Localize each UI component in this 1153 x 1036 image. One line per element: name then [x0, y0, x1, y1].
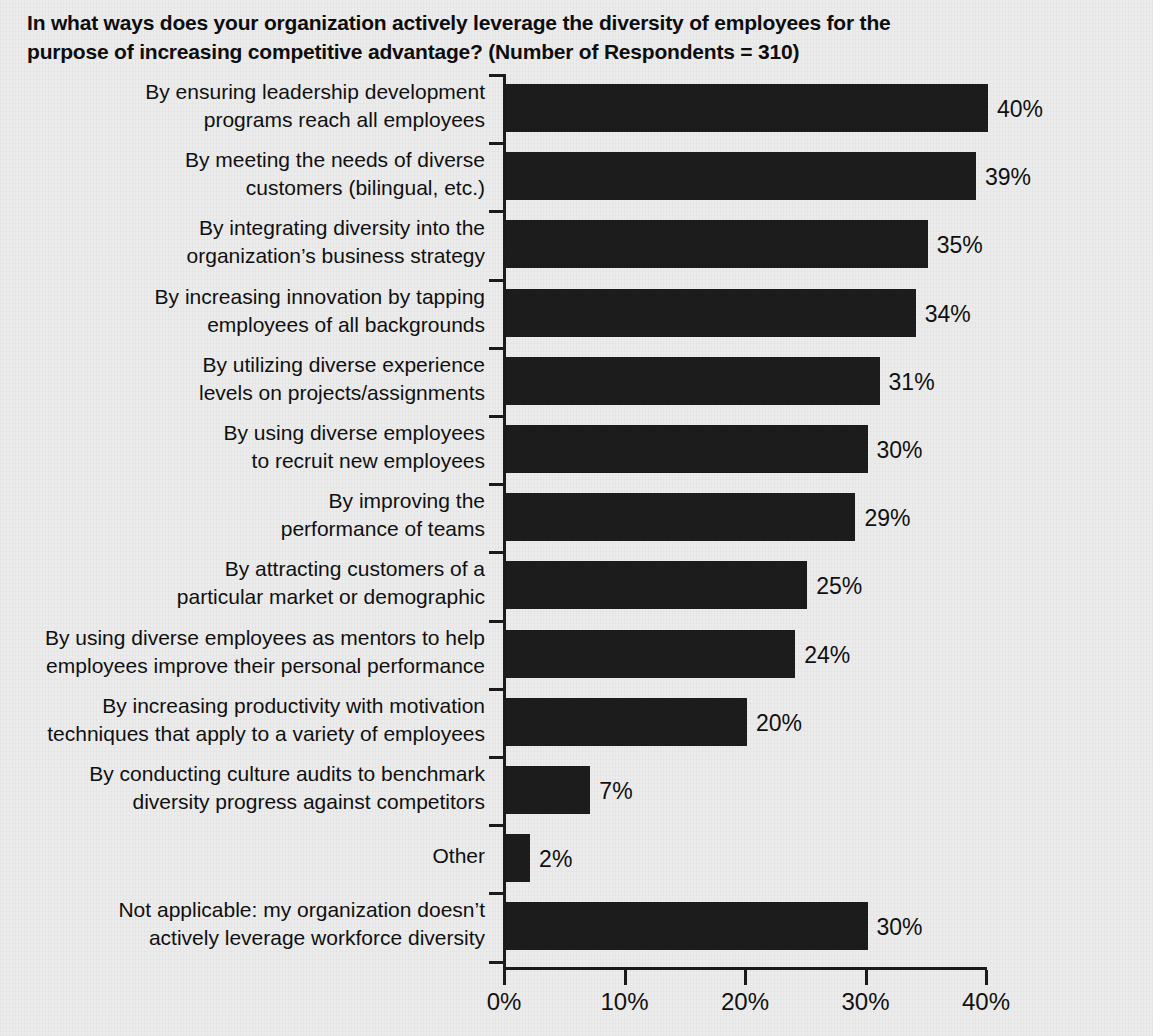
bar: [506, 289, 916, 337]
bar-value-label: 30%: [877, 914, 923, 941]
y-axis-tick: [489, 551, 504, 554]
bar-category-label: By using diverse employees as mentors to…: [15, 624, 485, 680]
bar: [506, 766, 590, 814]
bar-value-label: 30%: [877, 437, 923, 464]
x-axis-tick-label: 20%: [721, 988, 769, 1016]
x-axis-tick-label: 40%: [962, 988, 1010, 1016]
bar-category-label: By meeting the needs of diverse customer…: [15, 146, 485, 202]
bar: [506, 357, 880, 405]
bar-category-label: By conducting culture audits to benchmar…: [15, 760, 485, 816]
y-axis-tick: [489, 347, 504, 350]
bar-category-label: By ensuring leadership development progr…: [15, 78, 485, 134]
bar: [506, 834, 530, 882]
page-title: In what ways does your organization acti…: [27, 8, 947, 66]
bar-category-label: By increasing productivity with motivati…: [15, 692, 485, 748]
bar: [506, 561, 807, 609]
y-axis-tick: [489, 142, 504, 145]
bar: [506, 152, 976, 200]
bar: [506, 630, 795, 678]
bar: [506, 902, 868, 950]
y-axis-tick: [489, 74, 504, 77]
y-axis-tick: [489, 756, 504, 759]
bar: [506, 425, 868, 473]
y-axis-tick: [489, 483, 504, 486]
bar-value-label: 2%: [539, 846, 572, 873]
y-axis-tick: [489, 688, 504, 691]
page-title-line-1: In what ways does your organization acti…: [27, 8, 947, 37]
bar: [506, 493, 855, 541]
y-axis-tick: [489, 620, 504, 623]
bar-category-label: By improving the performance of teams: [15, 487, 485, 543]
x-axis-tick-label: 0%: [487, 988, 522, 1016]
x-axis-tick: [624, 970, 627, 985]
bar-category-label: By integrating diversity into the organi…: [15, 214, 485, 270]
bar-chart: 0%10%20%30%40% By ensuring leadership de…: [0, 0, 1153, 1036]
bar-value-label: 31%: [889, 369, 935, 396]
x-axis-tick: [985, 970, 988, 985]
bar-category-label: By utilizing diverse experience levels o…: [15, 351, 485, 407]
bar-value-label: 20%: [756, 710, 802, 737]
bar: [506, 220, 928, 268]
page-title-line-2: purpose of increasing competitive advant…: [27, 37, 947, 66]
y-axis-tick: [489, 415, 504, 418]
bar-value-label: 40%: [997, 96, 1043, 123]
bar-value-label: 29%: [864, 505, 910, 532]
x-axis-tick: [744, 970, 747, 985]
bar-category-label: By increasing innovation by tapping empl…: [15, 283, 485, 339]
y-axis-tick: [489, 210, 504, 213]
bar-value-label: 39%: [985, 164, 1031, 191]
bar-value-label: 25%: [816, 573, 862, 600]
bar-value-label: 24%: [804, 642, 850, 669]
bar-value-label: 7%: [599, 778, 632, 805]
bar-category-label: By using diverse employees to recruit ne…: [15, 419, 485, 475]
bar: [506, 84, 988, 132]
x-axis-tick-label: 10%: [600, 988, 648, 1016]
bar: [506, 698, 747, 746]
y-axis-tick: [489, 961, 504, 964]
bar-value-label: 35%: [937, 232, 983, 259]
bar-value-label: 34%: [925, 301, 971, 328]
y-axis-tick: [489, 892, 504, 895]
y-axis-tick: [489, 279, 504, 282]
x-axis-tick: [865, 970, 868, 985]
bar-category-label: Not applicable: my organization doesn’t …: [15, 896, 485, 952]
x-axis-tick-label: 30%: [841, 988, 889, 1016]
bar-category-label: Other: [15, 842, 485, 870]
bar-category-label: By attracting customers of a particular …: [15, 555, 485, 611]
y-axis-tick: [489, 824, 504, 827]
x-axis-tick: [503, 970, 506, 985]
